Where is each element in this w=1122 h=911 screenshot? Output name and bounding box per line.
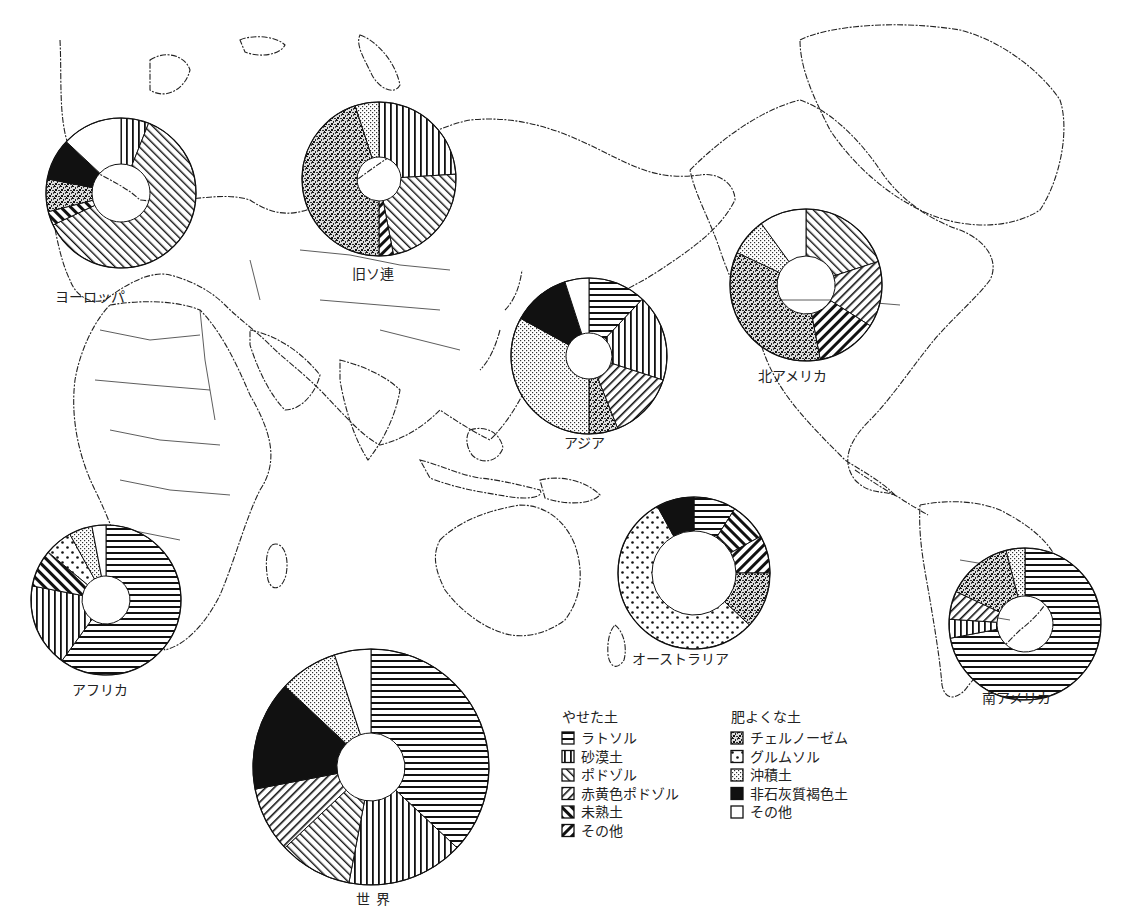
map-arabia (250, 330, 320, 410)
legend-label-immature: 未熟土 (581, 804, 623, 820)
map-greenland (800, 25, 1064, 225)
legend-label-poor-other: その他 (581, 823, 623, 839)
donut-slice-podzol (383, 174, 456, 254)
legend-swatch-immature (562, 806, 574, 818)
region-label-asia: アジア (564, 435, 605, 451)
map-new-zealand (608, 625, 625, 666)
map-central-america (855, 470, 928, 515)
legend-label-rich-other: その他 (750, 804, 792, 820)
map-novaya-zemlya (359, 35, 400, 90)
map-indonesia (420, 460, 541, 498)
donut-3 (730, 209, 882, 361)
region-label-australia: オーストラリア (632, 651, 729, 667)
legend-label-laterite: ラトソル (581, 730, 637, 746)
region-label-north-america: 北アメリカ (758, 368, 827, 384)
legend-label-podzol: ポドゾル (581, 767, 637, 783)
donut-6 (31, 525, 181, 675)
legend-group-title-poor: やせた土 (562, 709, 618, 725)
region-label-ussr: 旧ソ連 (352, 266, 394, 282)
legend-swatch-alluvial (731, 769, 743, 781)
legend-swatch-rich-other (731, 806, 743, 818)
legend-label-brown: 非石灰質褐色土 (750, 786, 848, 802)
donut-0 (46, 118, 196, 268)
donut-5 (949, 548, 1101, 700)
region-donut-charts (31, 102, 1101, 885)
map-australia (435, 505, 580, 636)
legend-label-chernozem: チェルノーゼム (750, 730, 848, 746)
legend-swatch-podzol (562, 769, 574, 781)
legend-swatch-chernozem (731, 732, 743, 744)
donut-7 (253, 649, 489, 885)
map-borneo (467, 428, 503, 460)
region-label-europe: ヨーロッパ (55, 289, 125, 305)
map-india (340, 360, 400, 460)
legend-swatch-poor-other (562, 825, 574, 837)
legend-swatch-grumusol (731, 751, 743, 763)
map-madagascar (266, 544, 287, 588)
region-label-africa: アフリカ (72, 682, 128, 698)
donut-4 (618, 497, 770, 649)
legend-swatch-laterite (562, 732, 574, 744)
legend-group-title-rich: 肥よくな土 (731, 709, 801, 725)
donut-2 (511, 278, 667, 434)
map-new-guinea (540, 478, 600, 503)
legend-label-redyellow: 赤黄色ポドゾル (581, 786, 679, 802)
legend: やせた土 肥よくな土 ラトソル砂漠土ポドゾル赤黄色ポドゾル未熟土その他チェルノー… (562, 709, 848, 839)
soil-map-chart: ヨーロッパ 旧ソ連 アジア 北アメリカ オーストラリア 南アメリカ アフリカ 世… (0, 0, 1122, 911)
donut-1 (302, 102, 456, 256)
region-label-south-america: 南アメリカ (982, 690, 1051, 706)
legend-swatch-brown (731, 788, 743, 800)
map-arctic-islands (240, 37, 285, 55)
legend-label-desert: 砂漠土 (581, 749, 623, 765)
donut-slice-desert (379, 102, 456, 178)
region-label-world: 世界 (356, 891, 396, 907)
legend-swatch-desert (562, 751, 574, 763)
map-svalbard (150, 55, 190, 94)
legend-swatch-redyellow (562, 788, 574, 800)
legend-label-alluvial: 沖積土 (750, 767, 792, 783)
legend-label-grumusol: グルムソル (750, 749, 820, 765)
